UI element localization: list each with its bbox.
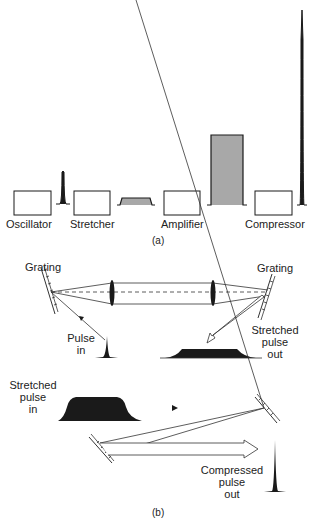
compressor-grating-right [255, 394, 280, 423]
label-stretched-out-line2: pulse [245, 336, 305, 348]
label-stretched-out-line1: Stretched [245, 324, 305, 336]
label-pulse-in-line2: in [66, 344, 96, 356]
label-stretched-pulse-out: Stretched pulse out [245, 324, 305, 360]
label-oscillator: Oscillator [6, 218, 52, 230]
label-stretched-in-line2: pulse [4, 391, 62, 403]
label-grating-left: Grating [25, 261, 61, 273]
stretched-pulse-a [117, 198, 155, 205]
label-stretched-in-line3: in [4, 403, 62, 415]
panel-a [14, 10, 307, 215]
stretched-pulse-in [58, 397, 142, 421]
label-compressor: Compressor [245, 218, 305, 230]
label-amplifier: Amplifier [161, 218, 204, 230]
stretcher-box [74, 191, 110, 215]
label-compressed-out-line1: Compressed [196, 464, 268, 476]
label-pulse-in: Pulse in [66, 332, 96, 356]
amplified-pulse [207, 135, 247, 205]
label-compressed-pulse-out: Compressed pulse out [196, 464, 268, 500]
grating-left [41, 266, 58, 314]
label-compressed-out-line2: pulse [196, 476, 268, 488]
compressor-box [255, 191, 292, 215]
label-stretched-pulse-in: Stretched pulse in [4, 379, 62, 415]
amplifier-box [164, 191, 200, 215]
oscillator-box [14, 191, 51, 215]
label-compressed-out-line3: out [196, 488, 268, 500]
compressed-pulse [297, 10, 307, 205]
label-stretcher: Stretcher [70, 218, 115, 230]
label-grating-right: Grating [257, 262, 293, 274]
lens-left [110, 280, 115, 306]
lens-right [211, 280, 216, 306]
stretched-pulse-out [165, 349, 256, 358]
panel-b-compressor [58, 0, 286, 492]
caption-a: (a) [152, 235, 164, 247]
pulse-in-spike [95, 336, 118, 358]
compressed-out-arrow [100, 440, 258, 458]
label-stretched-in-line1: Stretched [4, 379, 62, 391]
caption-b: (b) [152, 507, 164, 519]
label-pulse-in-line1: Pulse [66, 332, 96, 344]
beam-arrowhead [172, 405, 178, 411]
oscillator-pulse [56, 171, 70, 204]
label-stretched-out-line3: out [245, 348, 305, 360]
